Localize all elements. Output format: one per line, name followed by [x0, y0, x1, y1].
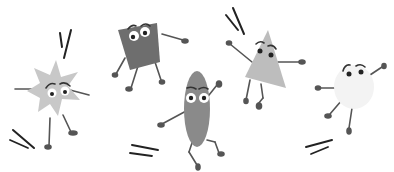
square-character [113, 23, 189, 156]
shapes-illustration [0, 0, 394, 172]
oval-character [158, 71, 224, 170]
illustration-scene [0, 0, 394, 172]
cloud-character [306, 64, 386, 155]
star-character [10, 30, 89, 149]
triangle-character [226, 8, 305, 109]
